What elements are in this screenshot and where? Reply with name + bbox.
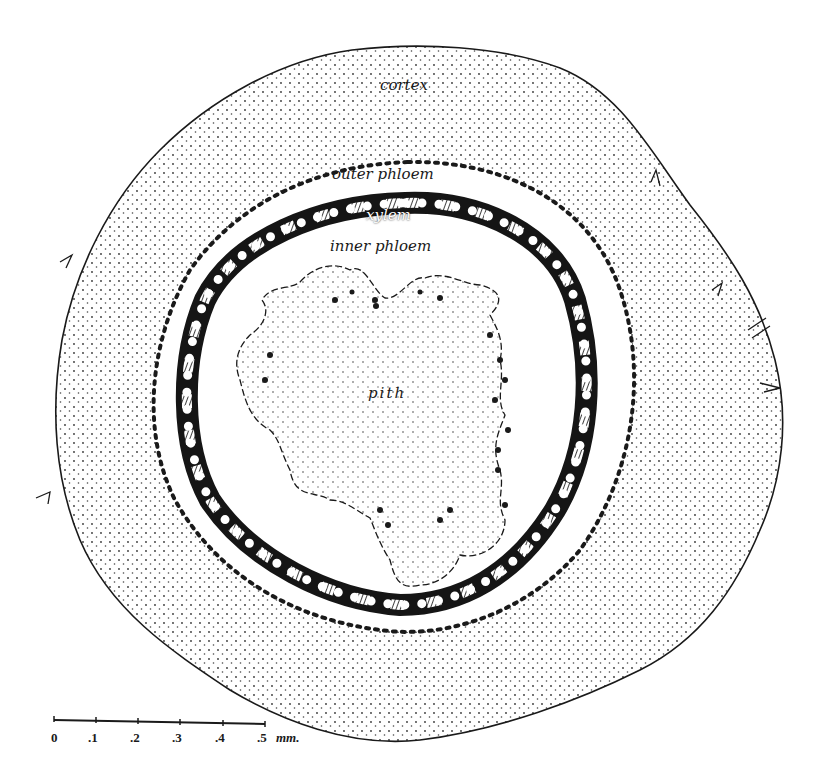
scale-tick-4: .4 (215, 730, 225, 746)
scale-tick-5: .5 (257, 730, 267, 746)
scale-tick-3: .3 (172, 730, 182, 746)
scale-bar-line (0, 0, 818, 777)
scale-tick-2: .2 (130, 730, 140, 746)
scale-tick-1: .1 (88, 730, 98, 746)
scale-tick-0: 0 (51, 730, 58, 746)
scale-unit: mm. (276, 730, 299, 746)
stem-cross-section-diagram: cortex outer phloem xylem inner phloem p… (0, 0, 818, 777)
